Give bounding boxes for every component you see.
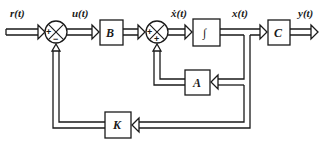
label-x: x(t) — [231, 7, 248, 20]
block-B: B — [100, 20, 123, 45]
label-u: u(t) — [72, 7, 89, 20]
arrow-xdot — [168, 25, 192, 39]
sum2-plus-left: + — [147, 27, 152, 37]
arrow-B-to-sum2 — [123, 25, 145, 39]
summing-junction-1: + − — [45, 21, 67, 44]
summing-junction-2: + + — [146, 21, 168, 44]
block-C: C — [268, 20, 290, 45]
label-y: y(t) — [296, 7, 313, 20]
arrow-K-to-sum1 — [52, 44, 105, 128]
input-arrow-r — [6, 25, 45, 39]
block-integrator: ∫ — [193, 19, 220, 46]
sum1-minus-sign: − — [53, 34, 58, 44]
label-xdot: ẋ(t) — [170, 7, 187, 20]
arrow-u — [67, 25, 99, 39]
output-arrow-y — [290, 25, 318, 39]
svg-text:∫: ∫ — [202, 26, 207, 40]
sum2-plus-bottom: + — [154, 34, 159, 44]
svg-text:B: B — [105, 26, 114, 40]
label-r: r(t) — [10, 7, 25, 20]
block-A: A — [185, 70, 210, 95]
sum1-plus-sign: + — [46, 27, 51, 37]
arrow-A-to-sum2 — [153, 44, 185, 85]
svg-text:C: C — [274, 26, 283, 40]
block-diagram: r(t) + − u(t) B + + ẋ(t) ∫ — [0, 0, 324, 148]
svg-text:A: A — [192, 76, 201, 90]
block-K: K — [105, 112, 131, 138]
svg-text:K: K — [112, 118, 122, 132]
